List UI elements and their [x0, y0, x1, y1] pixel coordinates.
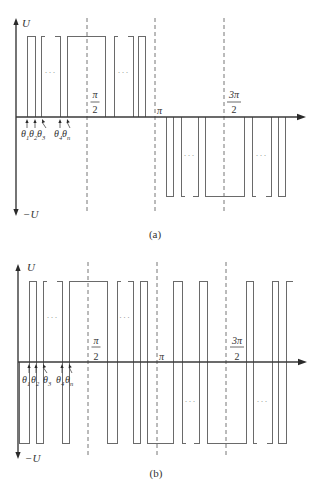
switching-angle-marker: θn: [65, 364, 73, 387]
pulse-waveform: [27, 36, 285, 196]
tick-denominator: 2: [232, 104, 237, 115]
panel-a-caption: (a): [149, 228, 162, 241]
arrow-right-icon: [298, 359, 307, 365]
ellipsis-dots: ···: [257, 396, 269, 406]
tick-label-fraction: π2: [91, 89, 100, 115]
ellipsis-dots: ···: [184, 150, 196, 160]
switching-angle-marker: θ4: [56, 364, 65, 387]
ellipsis-dots: ···: [185, 396, 197, 406]
arrow-down-icon: [13, 209, 18, 216]
negative-voltage-label: −U: [25, 452, 41, 464]
angle-arrow-icon: [42, 119, 45, 123]
tick-denominator: 2: [235, 351, 240, 362]
tick-denominator: 2: [93, 104, 98, 115]
angle-label: θ1: [21, 128, 29, 141]
ellipsis-dots: ···: [45, 67, 57, 77]
tick-denominator: 2: [94, 351, 99, 362]
panel-b-caption: (b): [150, 467, 163, 480]
switching-angle-marker: θn: [62, 119, 70, 141]
arrow-right-icon: [297, 114, 306, 120]
ellipsis-dots: ···: [256, 150, 268, 160]
tick-label-fraction: 3π2: [230, 335, 244, 362]
angle-label: θ3: [43, 374, 52, 387]
tick-numerator: 3π: [231, 335, 243, 346]
tick-label-pi: π: [157, 105, 163, 116]
ellipsis-dots: ···: [47, 312, 59, 322]
tick-numerator: 3π: [228, 89, 240, 100]
tick-numerator: π: [92, 89, 98, 100]
angle-label: θn: [65, 374, 73, 387]
arrow-up-icon: [15, 264, 20, 271]
panel-a-unipolar-waveform: ············U−Uπ2π3π2θ1θ2θ3θ4θn: [13, 17, 306, 220]
waveform-diagram-canvas: ············U−Uπ2π3π2θ1θ2θ3θ4θn ········…: [0, 0, 321, 493]
tick-numerator: π: [93, 335, 99, 346]
switching-angle-marker: θ3: [43, 364, 52, 387]
switching-angle-marker: θ3: [37, 119, 46, 141]
positive-voltage-label: U: [22, 17, 31, 29]
arrow-up-icon: [13, 18, 18, 25]
switching-angle-marker: θ1: [21, 119, 29, 141]
negative-voltage-label: −U: [23, 208, 39, 220]
ellipsis-dots: ···: [118, 67, 130, 77]
angle-label: θ4: [56, 374, 65, 387]
angle-label: θn: [62, 128, 70, 141]
arrow-down-icon: [15, 452, 20, 459]
tick-label-pi: π: [159, 351, 165, 362]
panel-b-bipolar-waveform: ············U−Uπ2π3π2θ1θ2θ3θ4θn: [15, 261, 307, 464]
tick-label-fraction: π2: [92, 335, 101, 362]
angle-label: θ3: [37, 128, 46, 141]
angle-arrow-icon: [60, 364, 63, 368]
angle-arrow-icon: [58, 119, 61, 123]
switching-angle-marker: θ2: [31, 364, 40, 387]
waveform-figure: ············U−Uπ2π3π2θ1θ2θ3θ4θn ········…: [0, 0, 321, 493]
positive-voltage-label: U: [27, 261, 36, 273]
tick-label-fraction: 3π2: [227, 89, 241, 115]
ellipsis-dots: ···: [119, 312, 131, 322]
angle-arrow-icon: [43, 364, 46, 368]
angle-label: θ2: [31, 374, 40, 387]
angle-arrow-icon: [67, 119, 70, 123]
angle-arrow-icon: [69, 364, 72, 368]
angle-arrow-icon: [25, 119, 28, 123]
angle-arrow-icon: [34, 364, 37, 368]
angle-arrow-icon: [27, 364, 30, 368]
angle-arrow-icon: [33, 119, 36, 123]
